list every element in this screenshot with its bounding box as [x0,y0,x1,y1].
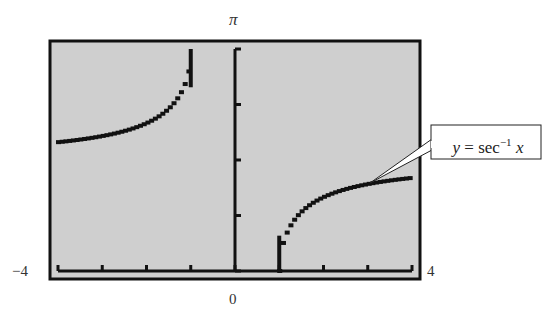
function-annotation: y = sec−1 x [436,128,540,156]
calculator-plot [0,0,557,329]
